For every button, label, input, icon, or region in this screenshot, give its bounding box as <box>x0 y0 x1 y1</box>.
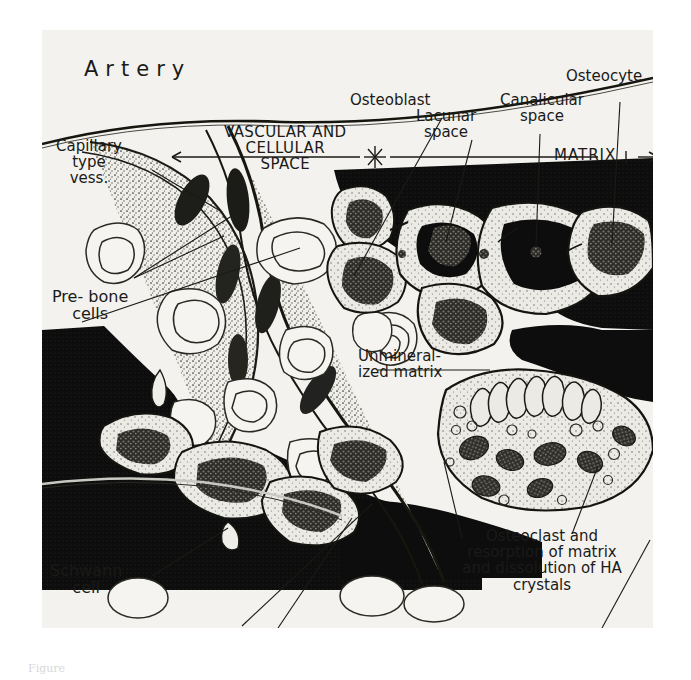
label-lacunar-space: Lacunar space <box>416 108 476 140</box>
label-vascular-cellular-space: VASCULAR AND CELLULAR SPACE <box>224 124 347 173</box>
label-osteoblast: Osteoblast <box>350 92 431 108</box>
canalicular-dot-1 <box>479 249 489 259</box>
label-unmineralized-matrix: Unmineral- ized matrix <box>358 348 442 380</box>
label-canalicular-space: Canalicular space <box>500 92 584 124</box>
label-pre-bone-cells: Pre- bone cells <box>52 288 128 323</box>
canalicular-dot-2 <box>531 247 542 258</box>
micrograph-plate: Artery Capillary type vess. Pre- bone ce… <box>42 30 653 628</box>
label-schwann-cell: Schwann cell <box>50 562 122 597</box>
label-capillary-type-vess: Capillary type vess. <box>56 138 122 187</box>
figure-page: Artery Capillary type vess. Pre- bone ce… <box>0 0 691 680</box>
label-artery: Artery <box>84 58 191 81</box>
label-osteoclast-resorption: Osteoclast and resorption of matrix and … <box>428 528 653 593</box>
label-osteocyte: Osteocyte <box>566 68 642 84</box>
figure-caption-clipped: Figure <box>28 662 428 678</box>
label-matrix: MATRIX <box>554 147 616 163</box>
